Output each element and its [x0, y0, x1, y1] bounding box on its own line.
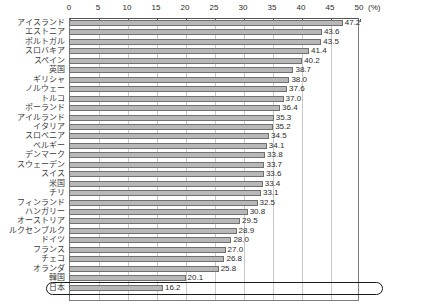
bar: [69, 29, 322, 35]
category-label: 日本: [0, 283, 65, 293]
x-axis-tick-label: 35: [268, 3, 277, 12]
bar: [69, 115, 274, 121]
x-axis: 05101520253035404550(%): [0, 0, 428, 18]
x-axis-tick-label: 40: [297, 3, 306, 12]
x-axis-tick-label: 45: [326, 3, 335, 12]
bar: [69, 256, 224, 262]
bar: [69, 96, 284, 102]
bar: [69, 237, 231, 243]
x-axis-tick-label: 25: [210, 3, 219, 12]
x-axis-unit-label: (%): [368, 3, 380, 12]
bar: [69, 48, 309, 54]
bar: [69, 133, 269, 139]
bar: [69, 143, 267, 149]
bar: [69, 20, 343, 26]
bar: [69, 39, 321, 45]
bar: [69, 200, 258, 206]
bar: [69, 105, 280, 111]
bar: [69, 218, 240, 224]
x-axis-tick-label: 10: [123, 3, 132, 12]
bar: [69, 190, 261, 196]
x-axis-tick-label: 30: [239, 3, 248, 12]
bar-row: 日本16.2: [0, 284, 428, 293]
x-axis-tick-label: 15: [152, 3, 161, 12]
x-axis-tick-label: 5: [96, 3, 100, 12]
bar: [69, 152, 265, 158]
x-axis-tick-label: 50: [355, 3, 364, 12]
bar: [69, 58, 302, 64]
bar: [69, 228, 237, 234]
bar-value-label: 16.2: [165, 283, 181, 293]
horizontal-bar-chart: 05101520253035404550(%) アイスランド47.2エストニア4…: [0, 0, 428, 305]
bar: [69, 181, 263, 187]
bar-value-label: 47.2: [345, 18, 361, 28]
bar: [69, 247, 226, 253]
bar-rows: アイスランド47.2エストニア43.6ポルトガル43.5スロバキア41.4スペイ…: [0, 18, 428, 301]
bar: [69, 124, 273, 130]
bar-value-label: 20.1: [188, 273, 204, 283]
bar: [69, 285, 163, 291]
bar: [69, 266, 219, 272]
bar: [69, 171, 264, 177]
bar: [69, 67, 293, 73]
bar: [69, 209, 248, 215]
x-axis-tick-label: 20: [181, 3, 190, 12]
bar: [69, 86, 287, 92]
bar: [69, 275, 186, 281]
bar: [69, 77, 289, 83]
x-axis-tick-label: 0: [67, 3, 71, 12]
bar-value-label: 25.8: [221, 264, 237, 274]
bar: [69, 162, 264, 168]
